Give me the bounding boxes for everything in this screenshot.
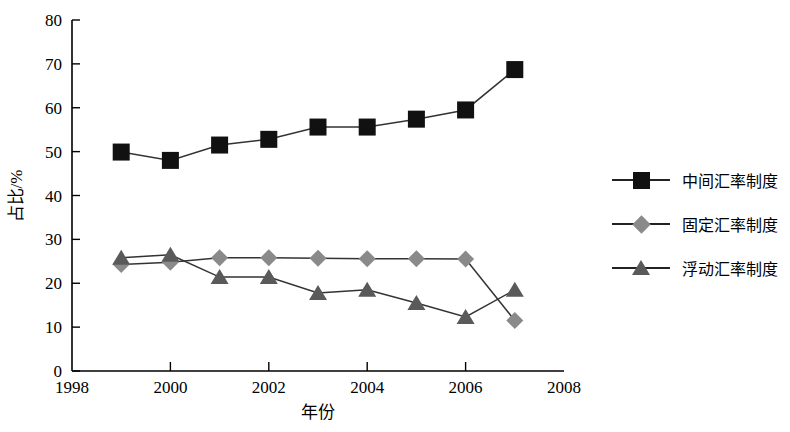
square-marker-icon [359,119,376,136]
diamond-marker-icon [359,250,376,267]
x-tick-label: 1998 [55,378,89,397]
x-tick-label: 2002 [252,378,286,397]
legend-item-2: 浮动汇率制度 [612,256,778,280]
triangle-marker-icon [358,282,376,297]
triangle-marker-icon [407,295,425,310]
diamond-marker-icon [632,215,650,233]
square-marker-icon [113,144,130,161]
x-tick-label: 2000 [153,378,187,397]
triangle-marker-icon [632,260,650,275]
y-axis-title: 占比/% [7,170,26,223]
triangle-marker-icon [161,247,179,262]
y-tick-label: 70 [45,55,62,74]
square-marker-icon [457,101,474,118]
series-line [121,70,515,161]
square-marker-icon [162,152,179,169]
legend-item-0: 中间汇率制度 [612,168,778,192]
data-series-group [112,61,524,329]
y-tick-label: 30 [45,230,62,249]
diamond-marker-icon [408,250,425,267]
triangle-marker-icon [506,282,524,297]
legend-key-triangle [612,257,670,279]
square-marker-icon [506,61,523,78]
legend-label-0: 中间汇率制度 [682,168,778,192]
legend-label-2: 浮动汇率制度 [682,256,778,280]
y-tick-label: 20 [45,274,62,293]
legend-label-1: 固定汇率制度 [682,212,778,236]
y-tick-label: 60 [45,99,62,118]
square-marker-icon [211,137,228,154]
y-tick-label: 40 [45,187,62,206]
legend-item-1: 固定汇率制度 [612,212,778,236]
diamond-marker-icon [457,251,474,268]
x-tick-label: 2004 [350,378,385,397]
diamond-marker-icon [310,250,327,267]
square-marker-icon [310,119,327,136]
square-marker-icon [408,111,425,128]
y-axis-ticks: 01020304050607080 [45,11,80,381]
diamond-marker-icon [260,249,277,266]
diamond-marker-icon [506,312,523,329]
chart-figure: 01020304050607080 1998200020022004200620… [0,0,790,432]
triangle-marker-icon [457,309,475,324]
y-tick-label: 50 [45,143,62,162]
axis-lines [72,20,564,371]
y-tick-label: 80 [45,11,62,30]
legend-key-square [612,169,670,191]
series-0 [113,61,524,169]
diamond-marker-icon [211,249,228,266]
y-tick-label: 10 [45,318,62,337]
square-marker-icon [260,131,277,148]
x-tick-label: 2008 [547,378,581,397]
x-axis-title: 年份 [301,403,335,422]
square-marker-icon [633,172,650,189]
x-axis-ticks: 199820002002200420062008 [55,362,581,397]
legend-key-diamond [612,213,670,235]
x-tick-label: 2006 [449,378,483,397]
